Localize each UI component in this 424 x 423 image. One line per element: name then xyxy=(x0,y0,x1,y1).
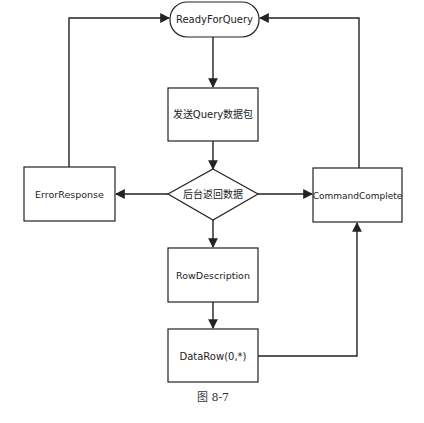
node-error-response: ErrorResponse xyxy=(24,167,115,221)
edge-error-to-ready xyxy=(69,18,169,167)
figure-caption: 图 8-7 xyxy=(197,391,229,404)
node-label: 后台返回数据 xyxy=(183,188,243,200)
flowchart-canvas: ReadyForQuery 发送Query数据包 后台返回数据 ErrorRes… xyxy=(0,0,424,423)
node-label: DataRow(0,*) xyxy=(179,351,246,362)
node-label: 发送Query数据包 xyxy=(173,108,253,120)
node-command-complete: CommandComplete xyxy=(313,168,403,222)
node-label: ErrorResponse xyxy=(35,189,104,200)
node-data-row: DataRow(0,*) xyxy=(168,329,258,382)
node-decision-backend-returns: 后台返回数据 xyxy=(168,169,258,220)
node-ready-for-query: ReadyForQuery xyxy=(170,2,259,37)
edge-datarow-to-complete xyxy=(258,223,357,356)
edge-complete-to-ready xyxy=(260,18,359,168)
node-label: CommandComplete xyxy=(313,191,403,201)
node-label: ReadyForQuery xyxy=(176,14,253,25)
node-label: RowDescription xyxy=(176,270,250,281)
node-send-query: 发送Query数据包 xyxy=(168,88,258,141)
node-row-description: RowDescription xyxy=(168,248,258,302)
